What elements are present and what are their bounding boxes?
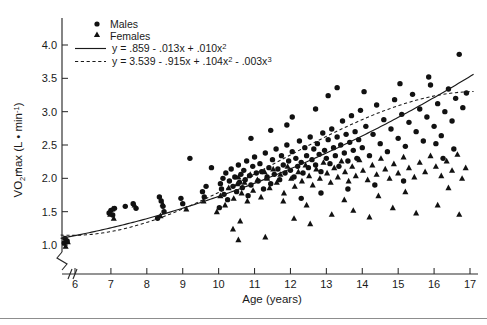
x-tick-label: 10 [213,278,225,290]
data-point-male [293,156,298,161]
data-point-male [440,156,445,161]
data-point-male [241,168,246,173]
data-point-female [295,168,301,174]
data-point-female [341,196,347,202]
data-point-male [388,126,393,131]
data-point-female [331,164,337,170]
data-point-male [273,146,278,151]
data-point-female [317,175,323,181]
data-point-male [320,130,325,135]
data-point-female [387,175,393,181]
males-regression-curve [61,74,474,238]
data-point-male [218,181,223,186]
x-tick-label: 17 [464,278,476,290]
data-point-male [395,136,400,141]
data-point-male [340,118,345,123]
data-point-female [250,187,256,193]
data-point-male [200,189,205,194]
data-point-male [290,114,295,119]
data-point-male [308,134,313,139]
data-point-female [456,211,462,217]
data-point-male [345,186,350,191]
data-point-female [239,190,245,196]
data-point-male [453,96,458,101]
data-point-male [268,181,273,186]
data-point-male [439,133,444,138]
data-point-male [327,161,332,166]
y-tick-label: 4.0 [42,39,57,51]
data-point-female [292,183,298,189]
data-point-female [353,172,359,178]
data-point-male [248,136,253,141]
data-point-female [291,215,297,221]
data-point-male [299,196,304,201]
data-point-male [178,196,183,201]
y-tick-label: 3.5 [42,72,57,84]
data-point-male [304,153,309,158]
data-point-female [281,190,287,196]
data-point-male [313,162,318,167]
chart-legend: Males Females y = .859 - .013x + .010x2 … [75,18,272,68]
data-point-female [328,179,334,185]
data-point-female [390,204,396,210]
data-point-male [279,153,284,158]
data-point-female [338,158,344,164]
data-point-male [261,186,266,191]
data-point-female [244,198,250,204]
data-point-female [360,167,366,173]
data-point-female [395,170,401,176]
data-point-male [413,129,418,134]
data-point-male [275,166,280,171]
x-axis-ticks [75,268,470,274]
data-point-female [231,195,237,201]
data-point-male [442,109,447,114]
data-point-female [262,234,268,240]
data-point-female [366,214,372,220]
data-point-male [392,97,397,102]
data-point-male [329,126,334,131]
data-point-female [306,172,312,178]
females-regression-curve [61,92,474,236]
data-point-female [307,220,313,226]
data-point-male [410,92,415,97]
data-point-male [336,164,341,169]
data-point-female [369,162,375,168]
v-dot-overdot-icon [15,170,17,172]
data-point-female [402,188,408,194]
data-point-male [334,134,339,139]
data-point-female [310,182,316,188]
data-point-male [325,137,330,142]
data-point-female [235,236,241,242]
x-tick-label: 12 [284,278,296,290]
data-point-male [421,138,426,143]
data-point-male [385,149,390,154]
data-point-male [123,204,128,209]
data-point-male [203,184,208,189]
data-point-male [426,74,431,79]
x-tick-label: 6 [72,278,78,290]
data-point-male [381,117,386,122]
data-point-female [350,207,356,213]
data-point-male [313,106,318,111]
data-point-male [401,178,406,183]
figure-container: 1.01.52.02.53.03.54.0 678910111213141516… [0,0,487,325]
data-point-male [343,132,348,137]
data-point-male [270,157,275,162]
data-point-male [209,165,214,170]
x-tick-label: 8 [144,278,150,290]
data-point-male [363,124,368,129]
x-tick-label: 11 [249,278,260,290]
data-point-female [454,151,460,157]
data-point-female [463,164,469,170]
x-axis-title: Age (years) [242,293,302,305]
x-tick-label: 9 [180,278,186,290]
data-point-male [297,138,302,143]
y-axis-break-mark [57,252,67,270]
y-axis-title: VO2max (L • min-1) [12,102,27,197]
series-females-points [63,151,469,249]
legend-females-equation: y = 3.539 - .915x + .104x2 - .003x3 [112,55,272,68]
data-point-male [230,184,235,189]
data-point-male [370,132,375,137]
data-point-male [229,166,234,171]
y-axis-ticks [62,45,68,245]
